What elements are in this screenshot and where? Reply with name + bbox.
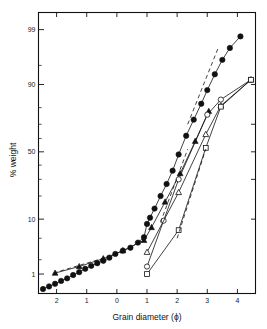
data-point-filled-circle <box>191 117 196 122</box>
data-point-filled-triangle <box>162 199 168 204</box>
x-axis-title: Grain diameter (ϕ) <box>112 312 181 322</box>
x-tick-label: 1 <box>145 297 149 304</box>
x-tick-label: 2 <box>175 297 179 304</box>
data-point-filled-circle <box>164 181 169 186</box>
data-point-filled-circle <box>152 206 157 211</box>
data-point-filled-circle <box>176 152 181 157</box>
data-point-filled-circle <box>40 286 45 291</box>
y-tick-label: 10 <box>28 216 36 223</box>
series-dashed-guide-top <box>188 49 218 124</box>
series-line-filled-circles <box>43 36 240 289</box>
data-point-filled-circle <box>212 72 217 77</box>
y-tick-label: 1 <box>32 271 36 278</box>
data-point-filled-circle <box>199 101 204 106</box>
x-tick-label: 0 <box>115 297 119 304</box>
data-point-open-square <box>218 104 223 109</box>
data-point-filled-circle <box>238 34 243 39</box>
data-point-filled-circle <box>52 281 57 286</box>
x-tick-label: 2 <box>55 297 59 304</box>
y-tick-label: 50 <box>28 148 36 155</box>
y-axis-ticks <box>39 30 256 274</box>
data-point-filled-circle <box>205 87 210 92</box>
series-filled-circles <box>40 34 243 292</box>
data-point-open-circle <box>205 112 210 117</box>
data-point-filled-circle <box>227 45 232 50</box>
data-point-filled-circle <box>76 269 81 274</box>
x-tick-label: 3 <box>205 297 209 304</box>
data-point-filled-circle <box>70 272 75 277</box>
series-line-dashed-guide-top <box>188 49 218 124</box>
data-point-filled-circle <box>58 278 63 283</box>
data-point-open-square <box>249 77 254 82</box>
data-point-filled-circle <box>220 57 225 62</box>
y-tick-label: 99 <box>28 26 36 33</box>
data-series-layer <box>40 34 254 292</box>
data-point-filled-circle <box>144 221 149 226</box>
series-line-dashed-guide-left <box>54 251 126 273</box>
y-tick-label: 90 <box>28 81 36 88</box>
grain-size-probability-chart: 2101234 110509099 Grain diameter (ϕ) % w… <box>0 0 267 329</box>
data-point-filled-circle <box>147 215 152 220</box>
y-axis-tick-labels: 110509099 <box>28 26 36 277</box>
data-point-filled-circle <box>158 193 163 198</box>
data-point-filled-circle <box>170 168 175 173</box>
data-point-filled-circle <box>183 133 188 138</box>
chart-canvas: 2101234 110509099 Grain diameter (ϕ) % w… <box>0 0 267 329</box>
data-point-open-triangle <box>144 249 150 254</box>
series-open-squares <box>145 77 254 276</box>
data-point-filled-circle <box>46 284 51 289</box>
data-point-open-triangle <box>176 189 182 194</box>
data-point-open-square <box>145 272 150 277</box>
y-axis-title: % weight <box>8 142 18 177</box>
data-point-open-circle <box>218 97 223 102</box>
series-dashed-guide-left <box>54 251 126 273</box>
data-point-filled-circle <box>64 276 69 281</box>
series-open-circles <box>144 77 253 269</box>
x-tick-label: 1 <box>85 297 89 304</box>
data-point-filled-circle <box>89 263 94 268</box>
data-point-open-triangle <box>203 131 209 136</box>
data-point-open-circle <box>144 264 149 269</box>
x-axis-tick-labels: 2101234 <box>55 297 240 304</box>
x-tick-label: 4 <box>235 297 239 304</box>
data-point-filled-circle <box>83 266 88 271</box>
